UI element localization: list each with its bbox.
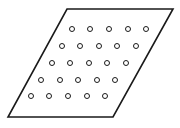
lattice-dot-center (116, 45, 118, 47)
lattice-dot-center (71, 28, 73, 30)
lattice-dot-center (69, 62, 71, 64)
parallelogram-dot-lattice-figure (0, 0, 180, 128)
lattice-dot-center (106, 62, 108, 64)
lattice-dot-center (67, 95, 69, 97)
lattice-dot-center (108, 28, 110, 30)
lattice-dot-center (125, 62, 127, 64)
lattice-dot-center (114, 79, 116, 81)
lattice-dot-center (88, 62, 90, 64)
lattice-dot-center (77, 79, 79, 81)
lattice-dot-center (98, 45, 100, 47)
lattice-dot-center (48, 95, 50, 97)
lattice-dot-center (51, 62, 53, 64)
lattice-dot-center (127, 28, 129, 30)
lattice-dot-center (89, 28, 91, 30)
lattice-dot-center (59, 79, 61, 81)
lattice-dot-center (61, 45, 63, 47)
lattice-dot-center (96, 79, 98, 81)
lattice-dot-center (79, 45, 81, 47)
lattice-dot-center (40, 79, 42, 81)
lattice-dot-center (104, 95, 106, 97)
lattice-dot-center (30, 95, 32, 97)
figure-root (0, 0, 180, 128)
lattice-dot-center (145, 28, 147, 30)
lattice-dot-center (135, 45, 137, 47)
lattice-dot-center (86, 95, 88, 97)
